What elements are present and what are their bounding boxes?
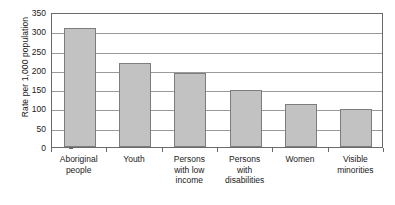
x-axis-tick-marks: [51, 148, 383, 153]
bar-slot: [329, 14, 384, 147]
y-axis-tick-label: 350: [22, 9, 46, 18]
x-axis-category-label: Women: [272, 154, 327, 165]
x-axis-tick-mark: [106, 148, 107, 152]
x-axis-category-label: Personswithdisabilities: [217, 154, 272, 186]
x-axis-tick-mark: [51, 148, 52, 152]
plot-area: [51, 13, 383, 148]
bar-chart: Rate per 1,000 population 05010015020025…: [0, 0, 395, 205]
y-axis-tick-label: 200: [22, 67, 46, 76]
bar-slot: [218, 14, 273, 147]
bar-slot: [107, 14, 162, 147]
x-axis-tick-mark: [217, 148, 218, 152]
y-axis-tick-label: 250: [22, 47, 46, 56]
bar[interactable]: [174, 73, 206, 147]
x-axis-tick-mark: [272, 148, 273, 152]
x-axis-category-label: Youth: [106, 154, 161, 165]
bar[interactable]: [340, 109, 372, 147]
x-axis-category-label: Personswith lowincome: [162, 154, 217, 186]
bar[interactable]: [285, 104, 317, 147]
y-axis-tick-labels: 050100150200250300350: [22, 13, 46, 148]
bar-slot: [163, 14, 218, 147]
x-axis-tick-mark: [383, 148, 384, 152]
bars-group: [52, 14, 382, 147]
y-axis-tick-label: 150: [22, 86, 46, 95]
y-axis-tick-label: 100: [22, 105, 46, 114]
bar[interactable]: [119, 63, 151, 147]
y-axis-tick-label: 0: [22, 144, 46, 153]
bar[interactable]: [64, 28, 96, 147]
y-axis-tick-label: 300: [22, 28, 46, 37]
y-axis-tick-label: 50: [22, 124, 46, 133]
x-axis-tick-mark: [328, 148, 329, 152]
bar[interactable]: [230, 90, 262, 147]
x-axis-category-label: Visibleminorities: [328, 154, 383, 175]
x-axis-tick-mark: [162, 148, 163, 152]
x-axis-category-labels: AboriginalpeopleYouthPersonswith lowinco…: [51, 154, 383, 202]
bar-slot: [273, 14, 328, 147]
x-axis-category-label: Aboriginalpeople: [51, 154, 106, 175]
bar-slot: [52, 14, 107, 147]
